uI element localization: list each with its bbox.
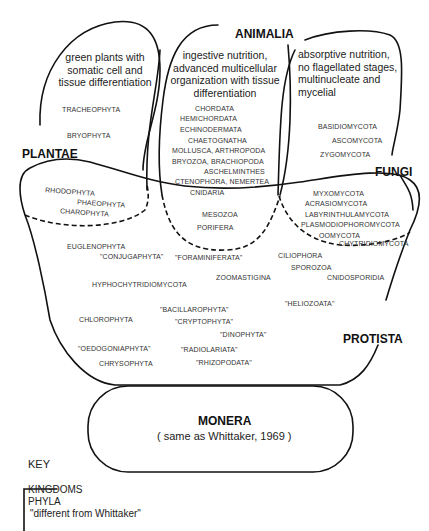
phylum-acrasiomycota: ACRASIOMYCOTA <box>305 200 367 207</box>
phylum-chaetognatha: CHAETOGNATHA <box>188 137 247 144</box>
phylum-sporozoa: SPOROZOA <box>291 264 331 271</box>
key-item-kingdoms: KINGDOMS <box>28 484 82 496</box>
plantae-description: green plants with somatic cell and tissu… <box>55 51 155 89</box>
phylum-hemichordata: HEMICHORDATA <box>180 115 237 122</box>
phylum-radiolariata: "RADIOLARIATA" <box>181 346 238 353</box>
kingdom-label-protista: PROTISTA <box>343 333 403 345</box>
phylum-chordata: CHORDATA <box>195 105 234 112</box>
phylum-rhizopodata: "RHIZOPODATA" <box>196 359 252 366</box>
phylum-chlorophyta: CHLOROPHYTA <box>79 316 133 323</box>
phylum-zygomycota: ZYGOMYCOTA <box>320 151 370 158</box>
phylum-chytridiomycota: CHYTRIDIOMYCOTA <box>339 240 408 247</box>
phylum-zoomastigina: ZOOMASTIGINA <box>216 274 271 281</box>
phylum-oomycota: OOMYCOTA <box>319 232 360 239</box>
phylum-mesozoa: MESOZOA <box>202 211 238 218</box>
phylum-tracheophyta: TRACHEOPHYTA <box>62 106 120 113</box>
phylum-ctenophora-nemertea: CTENOPHORA, NEMERTEA <box>175 178 269 185</box>
phylum-foraminiferata: "FORAMINIFERATA" <box>175 254 242 261</box>
monera-note: ( same as Whittaker, 1969 ) <box>157 431 292 442</box>
phylum-euglenophyta: EUGLENOPHYTA <box>67 243 125 250</box>
phylum-ascomycota: ASCOMYCOTA <box>332 137 382 144</box>
fungi-outline <box>278 50 295 195</box>
key-item-phyla: PHYLA <box>28 496 61 508</box>
fungi-description: absorptive nutrition, no flagellated sta… <box>298 48 398 98</box>
phylum-heliozoata: "HELIOZOATA" <box>285 300 334 307</box>
kingdom-label-plantae: PLANTAE <box>22 148 78 160</box>
phylum-cnidosporidia: CNIDOSPORIDIA <box>327 274 384 281</box>
monera-outline <box>88 386 353 472</box>
phylum-chrysophyta: CHRYSOPHYTA <box>99 360 153 367</box>
phylum-cryptophyta: "CRYPTOPHYTA" <box>175 318 233 325</box>
phylum-myxomycota: MYXOMYCOTA <box>313 190 364 197</box>
phylum-labyrinthulamycota: LABYRINTHULAMYCOTA <box>305 211 389 218</box>
phylum-bryozoa-brachiopoda: BRYOZOA, BRACHIOPODA <box>172 158 264 165</box>
phylum-hyphochytridiomycota: HYPHOCHYTRIDIOMYCOTA <box>92 281 187 288</box>
animalia-description: ingestive nutrition, advanced multicellu… <box>170 49 280 99</box>
phylum-mollusca-arthropoda: MOLLUSCA, ARTHROPODA <box>172 147 265 154</box>
key-title: KEY <box>28 459 50 470</box>
phylum-oedogoniaphyta: "OEDOGONIAPHYTA" <box>78 345 151 352</box>
phylum-porifera: PORIFERA <box>197 224 234 231</box>
phylum-plasmodiophoromycota: PLASMODIOPHOROMYCOTA <box>301 221 400 228</box>
key-item-different: "different from Whittaker" <box>30 508 141 520</box>
phylum-dinophyta: "DINOPHYTA" <box>220 331 266 338</box>
phylum-basidiomycota: BASIDIOMYCOTA <box>318 123 377 130</box>
kingdom-label-monera: MONERA <box>198 415 251 427</box>
kingdom-label-fungi: FUNGI <box>375 166 412 178</box>
animalia-protista-boundary <box>162 195 280 250</box>
phylum-aschelminthes: ASCHELMINTHES <box>204 168 265 175</box>
kingdom-label-animalia: ANIMALIA <box>235 28 294 40</box>
phylum-bacillarophyta: "BACILLAROPHYTA" <box>160 306 229 313</box>
phylum-cnidaria: CNIDARIA <box>190 189 224 196</box>
phylum-bryophyta: BRYOPHYTA <box>67 132 110 139</box>
phylum-conjugaphyta: "CONJUGAPHYTA" <box>100 253 163 260</box>
phylum-ciliophora: CILIOPHORA <box>278 252 322 259</box>
phylum-echinodermata: ECHINODERMATA <box>180 126 242 133</box>
